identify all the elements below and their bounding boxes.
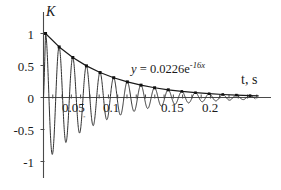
x-tick-label-0point2: 0.2 (202, 101, 218, 114)
envelope-peak-marker (99, 71, 102, 74)
equation-coefficient: 0.0226 (150, 62, 184, 76)
envelope-peak-marker (153, 86, 156, 89)
y-tick-label-minus1: -1 (4, 156, 34, 169)
y-tick-label-0point5: 0.5 (0, 60, 34, 73)
envelope-peak-marker (181, 90, 184, 93)
x-axis-title: t, s (241, 73, 257, 87)
x-tick-label-0point1: 0.1 (103, 101, 119, 114)
equation-equals: = (137, 62, 150, 76)
envelope-peak-marker (139, 84, 142, 87)
envelope-peak-marker (221, 93, 224, 96)
envelope-peak-marker (44, 32, 47, 35)
envelope-peak-marker (71, 56, 74, 59)
fit-equation-annotation: y = 0.0226e-16x (131, 61, 205, 76)
envelope-peak-marker (126, 80, 129, 83)
chart-figure: 1 0.5 0 -0.5 -1 0.05 0.1 0.15 0.2 K t, s… (0, 0, 281, 190)
axis-artifact-asterisk: * (83, 115, 86, 120)
x-tick-label-0point05: 0.05 (62, 101, 85, 114)
envelope-peak-marker (58, 45, 61, 48)
y-tick-label-minus0point5: -0.5 (0, 124, 34, 137)
envelope-peak-marker (194, 91, 197, 94)
y-axis-title: K (46, 5, 55, 19)
equation-exponent: -16x (190, 60, 205, 70)
envelope-peak-marker (167, 88, 170, 91)
y-tick-label-1: 1 (8, 28, 34, 41)
envelope-peak-marker (249, 94, 252, 97)
y-tick-label-0: 0 (8, 92, 34, 105)
envelope-peak-marker (112, 76, 115, 79)
envelope-peak-marker (235, 94, 238, 97)
x-tick-label-0point15: 0.15 (161, 101, 184, 114)
chart-plot-area (0, 0, 281, 190)
envelope-peak-marker (85, 64, 88, 67)
envelope-peak-marker (208, 92, 211, 95)
